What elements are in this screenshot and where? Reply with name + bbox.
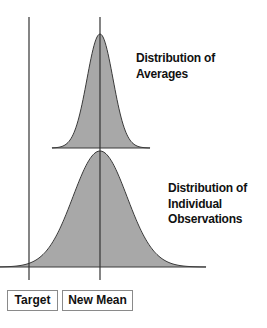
averages-label: Distribution of Averages [136,51,215,82]
new-mean-label: New Mean [62,290,133,311]
averages-label-line-2: Averages [136,67,215,83]
averages-label-line-1: Distribution of [136,51,215,67]
individuals-label-line-2: Individual [168,197,247,213]
individuals-label-line-3: Observations [168,212,247,228]
distribution-diagram [0,0,267,328]
individuals-label: Distribution of Individual Observations [168,181,247,228]
individuals-label-line-1: Distribution of [168,181,247,197]
target-label: Target [7,290,58,311]
